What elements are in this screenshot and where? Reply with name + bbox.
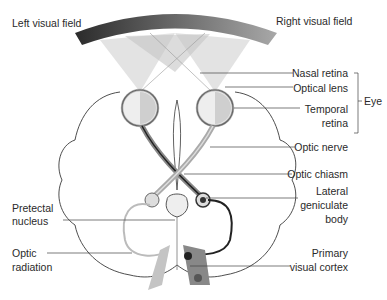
primary-visual-cortex-label-2: visual cortex	[270, 261, 348, 273]
lgb-label-1: Lateral	[280, 185, 348, 197]
lgb-label-3: body	[280, 213, 348, 225]
right-eye	[197, 90, 233, 126]
temporal-retina-label-1: Temporal	[290, 103, 348, 115]
pretectal-nucleus	[166, 194, 188, 217]
optic-chiasm-label: Optic chiasm	[280, 168, 348, 180]
left-visual-field-label: Left visual field	[12, 17, 81, 29]
lgb-label-2: geniculate	[280, 199, 348, 211]
optic-radiation-label-2: radiation	[12, 261, 52, 273]
optical-lens-label: Optical lens	[290, 82, 348, 94]
nasal-retina-label: Nasal retina	[290, 67, 348, 79]
pretectal-label-2: nucleus	[12, 215, 48, 227]
pretectal-label-1: Pretectal	[12, 202, 53, 214]
visual-cortex-left	[148, 245, 170, 290]
temporal-retina-label-2: retina	[290, 117, 348, 129]
primary-visual-cortex-label-1: Primary	[270, 247, 348, 259]
left-eye	[122, 90, 158, 126]
eye-label: Eye	[364, 95, 382, 107]
optic-nerve-label: Optic nerve	[280, 141, 348, 153]
optic-radiation-label-1: Optic	[12, 247, 37, 259]
optic-radiation-left	[124, 204, 168, 256]
optic-nerve-right	[150, 126, 213, 200]
right-visual-field-label: Right visual field	[276, 15, 352, 27]
optic-radiation-right	[185, 200, 232, 255]
